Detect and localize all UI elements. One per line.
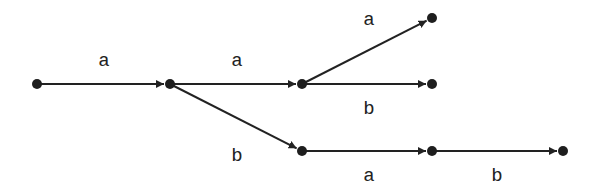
node-n7: [558, 146, 568, 156]
node-n3: [427, 13, 437, 23]
tree-diagram: aababab: [0, 0, 593, 196]
edge-label: b: [231, 145, 242, 167]
edge-label: a: [98, 50, 109, 72]
node-n5: [297, 146, 307, 156]
node-n0: [32, 79, 42, 89]
node-n4: [427, 79, 437, 89]
edge-label: a: [363, 9, 374, 31]
edge-label: b: [491, 165, 502, 187]
node-n6: [427, 146, 437, 156]
edge-n1-n5: [170, 84, 297, 148]
edges-group: [37, 21, 557, 151]
edge-label: a: [231, 50, 242, 72]
edge-label: b: [363, 98, 374, 120]
node-n1: [165, 79, 175, 89]
labels-group: aababab: [98, 9, 502, 187]
node-n2: [297, 79, 307, 89]
edge-label: a: [363, 165, 374, 187]
